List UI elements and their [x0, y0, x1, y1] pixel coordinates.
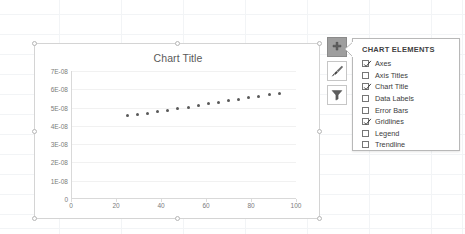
data-point[interactable]	[197, 104, 200, 107]
horizontal-gridline	[71, 126, 296, 127]
paintbrush-icon	[331, 65, 344, 78]
chart-element-item-gridlines[interactable]: Gridlines	[362, 116, 455, 128]
chart-element-label: Error Bars	[375, 106, 408, 115]
checkbox[interactable]	[362, 130, 369, 137]
data-point[interactable]	[136, 113, 139, 116]
chart-element-item-data-labels[interactable]: Data Labels	[362, 93, 455, 105]
chart-element-item-error-bars[interactable]: Error Bars	[362, 104, 455, 116]
checkbox[interactable]	[362, 107, 369, 114]
spreadsheet-canvas: Chart Title 01E-082E-083E-084E-085E-086E…	[0, 0, 465, 234]
checkbox[interactable]	[362, 60, 369, 67]
data-point[interactable]	[268, 93, 271, 96]
y-axis-line	[71, 71, 72, 199]
chart-element-label: Axis Titles	[375, 71, 408, 80]
resize-handle-bottom-left[interactable]	[32, 216, 37, 221]
resize-handle-bottom-center[interactable]	[175, 216, 180, 221]
data-point[interactable]	[278, 92, 281, 95]
chart-object[interactable]: Chart Title 01E-082E-083E-084E-085E-086E…	[34, 43, 320, 219]
horizontal-gridline	[71, 181, 296, 182]
x-axis-tick-label: 100	[291, 202, 302, 209]
plus-icon	[332, 42, 343, 53]
check-icon	[363, 118, 372, 127]
y-axis-tick-label: 1E-08	[51, 177, 68, 184]
checkbox[interactable]	[362, 95, 369, 102]
resize-handle-bottom-right[interactable]	[317, 216, 322, 221]
checkbox[interactable]	[362, 83, 369, 90]
data-point[interactable]	[146, 112, 149, 115]
resize-handle-top-right[interactable]	[317, 41, 322, 46]
y-axis-tick-label: 2E-08	[51, 159, 68, 166]
resize-handle-middle-left[interactable]	[32, 129, 37, 134]
chart-element-item-axis-titles[interactable]: Axis Titles	[362, 70, 455, 82]
plot-area[interactable]	[71, 71, 296, 199]
x-axis-tick	[116, 199, 117, 202]
resize-handle-top-left[interactable]	[32, 41, 37, 46]
x-axis-tick	[251, 199, 252, 202]
check-icon	[363, 60, 372, 69]
check-icon	[363, 83, 372, 92]
data-point[interactable]	[257, 95, 260, 98]
checkbox[interactable]	[362, 72, 369, 79]
chart-elements-header: CHART ELEMENTS	[362, 45, 435, 54]
resize-handle-middle-right[interactable]	[317, 129, 322, 134]
chart-element-label: Axes	[375, 59, 391, 68]
y-axis-tick-label: 0	[64, 196, 68, 203]
x-axis-tick-labels: 020406080100	[71, 202, 296, 214]
horizontal-gridline	[71, 71, 296, 72]
y-axis-tick-label: 7E-08	[51, 68, 68, 75]
chart-filters-button[interactable]	[327, 85, 347, 105]
chart-elements-list: AxesAxis TitlesChart TitleData LabelsErr…	[362, 58, 455, 151]
x-axis-tick-label: 0	[69, 202, 73, 209]
y-axis-tick-label: 4E-08	[51, 122, 68, 129]
chart-element-label: Trendline	[375, 140, 405, 149]
horizontal-gridline	[71, 144, 296, 145]
chart-element-item-chart-title[interactable]: Chart Title	[362, 81, 455, 93]
data-point[interactable]	[237, 98, 240, 101]
plot-inner	[71, 71, 296, 199]
data-point[interactable]	[187, 106, 190, 109]
horizontal-gridline	[71, 162, 296, 163]
data-point[interactable]	[156, 110, 159, 113]
data-point[interactable]	[227, 99, 230, 102]
chart-element-item-legend[interactable]: Legend	[362, 128, 455, 140]
x-axis-tick-label: 60	[202, 202, 209, 209]
data-point[interactable]	[166, 109, 169, 112]
resize-handle-top-center[interactable]	[175, 41, 180, 46]
x-axis-tick	[71, 199, 72, 202]
chart-element-label: Chart Title	[375, 82, 408, 91]
chart-styles-button[interactable]	[327, 61, 347, 81]
data-point[interactable]	[207, 102, 210, 105]
data-point[interactable]	[176, 107, 179, 110]
x-axis-line	[71, 198, 296, 199]
x-axis-tick-label: 20	[112, 202, 119, 209]
y-axis-tick-label: 5E-08	[51, 104, 68, 111]
chart-title[interactable]: Chart Title	[35, 52, 321, 64]
chart-element-label: Legend	[375, 129, 399, 138]
horizontal-gridline	[71, 108, 296, 109]
callout-pointer	[345, 42, 353, 58]
chart-elements-button[interactable]	[327, 37, 347, 57]
data-point[interactable]	[247, 96, 250, 99]
data-point[interactable]	[217, 101, 220, 104]
checkbox[interactable]	[362, 141, 369, 148]
y-axis-tick-labels: 01E-082E-083E-084E-085E-086E-087E-08	[35, 71, 68, 199]
y-axis-tick-label: 3E-08	[51, 141, 68, 148]
x-axis-tick	[296, 199, 297, 202]
data-point[interactable]	[126, 114, 129, 117]
chart-elements-panel[interactable]: CHART ELEMENTS AxesAxis TitlesChart Titl…	[352, 38, 460, 151]
chart-element-item-axes[interactable]: Axes	[362, 58, 455, 70]
x-axis-tick-label: 80	[247, 202, 254, 209]
x-axis-tick	[161, 199, 162, 202]
x-axis-tick	[206, 199, 207, 202]
y-axis-tick-label: 6E-08	[51, 86, 68, 93]
filter-icon	[331, 89, 343, 101]
checkbox[interactable]	[362, 118, 369, 125]
chart-element-label: Gridlines	[375, 117, 404, 126]
chart-element-label: Data Labels	[375, 94, 414, 103]
chart-element-item-trendline[interactable]: Trendline	[362, 139, 455, 151]
horizontal-gridline	[71, 89, 296, 90]
x-axis-tick-label: 40	[157, 202, 164, 209]
